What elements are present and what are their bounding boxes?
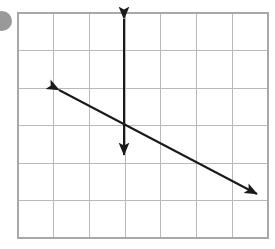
coordinate-grid-figure (0, 0, 275, 249)
figure-canvas (0, 0, 275, 249)
figure-background (0, 0, 275, 249)
